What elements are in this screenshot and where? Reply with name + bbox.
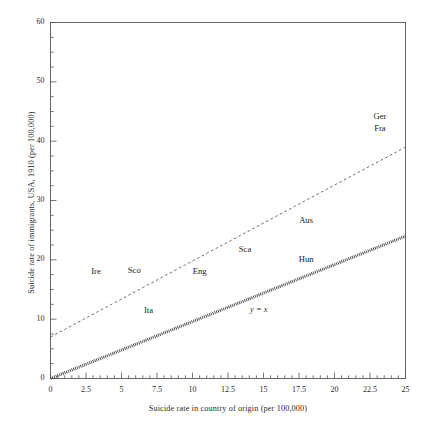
point-label-ger: Ger (366, 111, 394, 121)
x-tick-label: 7.5 (137, 385, 177, 394)
y-tick-label: 10 (17, 314, 45, 323)
point-label-fra: Fra (366, 123, 394, 133)
x-tick-label: 15 (244, 385, 284, 394)
x-tick-label: 10 (173, 385, 213, 394)
data-lines (51, 147, 406, 378)
x-tick-label: 5 (102, 385, 142, 394)
x-tick-label: 2.5 (66, 385, 106, 394)
point-label-aus: Aus (292, 215, 320, 225)
y-tick-label: 40 (17, 136, 45, 145)
axis-ticks (51, 23, 406, 379)
point-label-ita: Ita (134, 305, 162, 315)
suicide-rate-scatter-figure: Suicide rate of immigrants, USA, 1910 (p… (0, 0, 430, 428)
y-tick-label: 0 (17, 373, 45, 382)
x-tick-label: 0 (31, 385, 71, 394)
point-label-ire: Ire (82, 266, 110, 276)
y-tick-label: 60 (17, 17, 45, 26)
point-label-sco: Sco (120, 265, 148, 275)
point-label-eng: Eng (186, 266, 214, 276)
x-tick-label: 20 (315, 385, 355, 394)
x-tick-label: 17.5 (279, 385, 319, 394)
plot-frame (51, 23, 406, 379)
plot-canvas (0, 0, 430, 428)
y-tick-label: 30 (17, 195, 45, 204)
line-annotation-identity: y = x (250, 305, 267, 314)
x-tick-label: 22.5 (350, 385, 390, 394)
x-tick-label: 25 (386, 385, 426, 394)
point-label-hun: Hun (292, 254, 320, 264)
x-axis-title: Suicide rate in country of origin (per 1… (50, 404, 406, 413)
y-tick-label: 50 (17, 76, 45, 85)
point-label-sca: Sca (231, 244, 259, 254)
y-tick-label: 20 (17, 254, 45, 263)
x-tick-label: 12.5 (208, 385, 248, 394)
